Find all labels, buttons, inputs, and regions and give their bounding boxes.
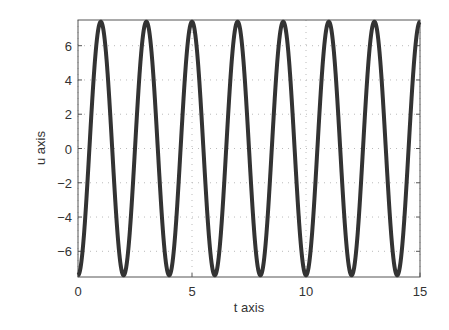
y-tick-label: 4 (65, 73, 72, 88)
y-tick-label: 0 (65, 142, 72, 157)
x-axis-label: t axis (234, 300, 265, 315)
y-tick-label: 6 (65, 39, 72, 54)
y-tick-label: −2 (57, 176, 72, 191)
x-tick-label: 10 (299, 284, 313, 299)
data-series-line (78, 22, 420, 276)
x-tick-label: 5 (188, 284, 195, 299)
y-axis-label: u axis (33, 131, 48, 165)
x-tick-labels: 051015 (74, 284, 427, 299)
x-tick-label: 15 (413, 284, 427, 299)
y-tick-label: −4 (57, 210, 72, 225)
line-chart: 6420−2−4−6 051015 t axis u axis (0, 0, 449, 330)
x-tick-label: 0 (74, 284, 81, 299)
y-tick-labels: 6420−2−4−6 (57, 39, 72, 260)
y-tick-label: −6 (57, 244, 72, 259)
y-tick-label: 2 (65, 107, 72, 122)
